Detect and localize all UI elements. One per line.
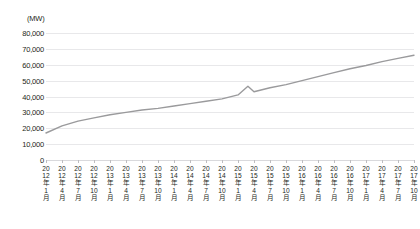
x-tick bbox=[254, 160, 255, 163]
x-tick bbox=[398, 160, 399, 163]
x-tick bbox=[46, 160, 47, 163]
x-tick bbox=[350, 160, 351, 163]
y-tick-label: 0 bbox=[2, 156, 44, 165]
x-tick bbox=[270, 160, 271, 163]
x-tick bbox=[110, 160, 111, 163]
y-tick-label: 30,000 bbox=[2, 108, 44, 117]
x-tick bbox=[286, 160, 287, 163]
y-tick-label: 10,000 bbox=[2, 140, 44, 149]
series-line-chart bbox=[46, 33, 414, 160]
y-tick-label: 50,000 bbox=[2, 76, 44, 85]
x-tick bbox=[206, 160, 207, 163]
x-tick bbox=[190, 160, 191, 163]
x-tick-label: 2016年10月 bbox=[346, 165, 355, 201]
x-tick-label: 2015年7月 bbox=[266, 165, 275, 201]
x-tick bbox=[222, 160, 223, 163]
x-tick-label: 2015年4月 bbox=[250, 165, 259, 201]
x-tick-label: 2013年4月 bbox=[122, 165, 131, 201]
x-tick-label: 2014年1月 bbox=[170, 165, 179, 201]
x-tick-label: 2014年4月 bbox=[186, 165, 195, 201]
x-tick bbox=[334, 160, 335, 163]
x-tick bbox=[62, 160, 63, 163]
x-tick-label: 2015年1月 bbox=[234, 165, 243, 201]
x-tick-label: 2017年10月 bbox=[410, 165, 419, 201]
y-tick-label: 80,000 bbox=[2, 29, 44, 38]
x-tick-label: 2017年7月 bbox=[394, 165, 403, 201]
x-tick-label: 2012年10月 bbox=[90, 165, 99, 201]
y-axis-labels: 010,00020,00030,00040,00050,00060,00070,… bbox=[0, 0, 44, 229]
y-tick-label: 70,000 bbox=[2, 44, 44, 53]
x-tick bbox=[78, 160, 79, 163]
x-tick bbox=[382, 160, 383, 163]
x-tick-label: 2012年7月 bbox=[74, 165, 83, 201]
x-tick bbox=[174, 160, 175, 163]
series-line bbox=[46, 55, 414, 133]
x-tick-label: 2012年4月 bbox=[58, 165, 67, 201]
x-tick-label: 2016年4月 bbox=[314, 165, 323, 201]
x-tick-label: 2013年7月 bbox=[138, 165, 147, 201]
x-tick-label: 2014年7月 bbox=[202, 165, 211, 201]
x-tick-label: 2017年1月 bbox=[362, 165, 371, 201]
x-tick bbox=[302, 160, 303, 163]
x-tick bbox=[142, 160, 143, 163]
x-tick bbox=[238, 160, 239, 163]
x-tick-label: 2013年1月 bbox=[106, 165, 115, 201]
y-tick-label: 60,000 bbox=[2, 60, 44, 69]
x-tick bbox=[414, 160, 415, 163]
line-chart: (MW) 010,00020,00030,00040,00050,00060,0… bbox=[0, 0, 420, 229]
y-tick-label: 40,000 bbox=[2, 92, 44, 101]
x-tick-label: 2015年10月 bbox=[282, 165, 291, 201]
plot-area bbox=[46, 33, 414, 160]
x-tick bbox=[318, 160, 319, 163]
x-tick-label: 2012年1月 bbox=[42, 165, 51, 201]
x-tick bbox=[94, 160, 95, 163]
x-tick-label: 2016年1月 bbox=[298, 165, 307, 201]
x-axis-labels: 2012年1月2012年4月2012年7月2012年10月2013年1月2013… bbox=[46, 165, 414, 227]
x-tick-label: 2017年4月 bbox=[378, 165, 387, 201]
y-tick-label: 20,000 bbox=[2, 124, 44, 133]
x-tick-label: 2016年7月 bbox=[330, 165, 339, 201]
x-tick-label: 2014年10月 bbox=[218, 165, 227, 201]
x-tick-label: 2013年10月 bbox=[154, 165, 163, 201]
x-tick bbox=[126, 160, 127, 163]
x-axis-ticks bbox=[46, 160, 414, 164]
x-tick bbox=[158, 160, 159, 163]
x-tick bbox=[366, 160, 367, 163]
